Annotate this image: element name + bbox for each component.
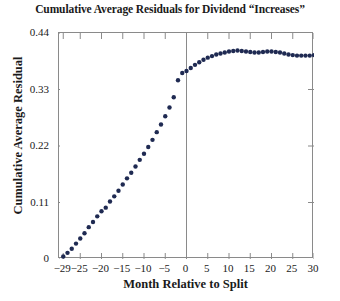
y-tick-label: 0.11 xyxy=(0,196,49,208)
x-tick-label: 20 xyxy=(265,262,276,274)
data-point xyxy=(150,138,154,142)
data-point xyxy=(112,194,116,198)
data-point xyxy=(138,158,142,162)
x-tick-label: 15 xyxy=(244,262,255,274)
x-tick-label: −10 xyxy=(134,262,151,274)
data-point xyxy=(282,51,286,55)
data-point xyxy=(184,69,188,73)
x-tick-label: −5 xyxy=(158,262,170,274)
data-point xyxy=(146,145,150,149)
data-point xyxy=(223,50,227,54)
data-point xyxy=(206,55,210,59)
data-point xyxy=(82,231,86,235)
data-point xyxy=(125,176,129,180)
data-point xyxy=(99,209,103,213)
data-point xyxy=(74,241,78,245)
data-point xyxy=(193,63,197,67)
data-point xyxy=(142,152,146,156)
data-point xyxy=(240,49,244,53)
data-point xyxy=(201,58,205,62)
data-point xyxy=(274,50,278,54)
data-point xyxy=(303,53,307,57)
data-point xyxy=(108,199,112,203)
data-point xyxy=(286,52,290,56)
data-point xyxy=(227,49,231,53)
data-point xyxy=(299,53,303,57)
data-point xyxy=(91,220,95,224)
data-point xyxy=(70,247,74,251)
plot-area xyxy=(58,32,313,258)
y-tick-label: 0.22 xyxy=(0,139,49,151)
y-tick-label: 0.44 xyxy=(0,26,49,38)
y-tick-label: 0.33 xyxy=(0,83,49,95)
data-point xyxy=(248,50,252,54)
data-point xyxy=(197,60,201,64)
plot-svg xyxy=(59,33,314,259)
data-point xyxy=(163,114,167,118)
data-point xyxy=(210,54,214,58)
data-point xyxy=(87,225,91,229)
y-tick-label: 0 xyxy=(0,252,49,264)
data-point xyxy=(172,95,176,99)
data-point xyxy=(189,66,193,70)
x-tick-label: −20 xyxy=(92,262,109,274)
data-point xyxy=(95,214,99,218)
data-point xyxy=(265,49,269,53)
data-point xyxy=(235,48,239,52)
data-point xyxy=(104,205,108,209)
x-tick-label: 30 xyxy=(308,262,319,274)
x-tick-label: 25 xyxy=(286,262,297,274)
x-axis-label: Month Relative to Split xyxy=(58,277,313,292)
data-point xyxy=(312,53,314,57)
data-point xyxy=(218,51,222,55)
data-point xyxy=(116,188,120,192)
data-point xyxy=(65,251,69,255)
data-point xyxy=(244,49,248,53)
x-tick-label: −29 xyxy=(54,262,71,274)
data-point xyxy=(261,50,265,54)
x-tick-label: −15 xyxy=(113,262,130,274)
data-point xyxy=(295,53,299,57)
data-point xyxy=(78,236,82,240)
x-tick-label: 0 xyxy=(183,262,189,274)
data-point xyxy=(269,49,273,53)
data-point xyxy=(308,53,312,57)
data-point xyxy=(176,78,180,82)
data-point xyxy=(257,50,261,54)
data-point xyxy=(214,52,218,56)
data-point xyxy=(159,122,163,126)
data-point xyxy=(121,182,125,186)
data-point xyxy=(129,171,133,175)
x-tick-label: −25 xyxy=(71,262,88,274)
data-point xyxy=(180,71,184,75)
data-point xyxy=(155,130,159,134)
x-tick-label: 5 xyxy=(204,262,210,274)
chart-title: Cumulative Average Residuals for Dividen… xyxy=(0,3,340,15)
data-point xyxy=(167,105,171,109)
chart-figure: Cumulative Average Residuals for Dividen… xyxy=(0,0,340,301)
data-point xyxy=(231,49,235,53)
data-point xyxy=(133,164,137,168)
data-point xyxy=(252,50,256,54)
data-point xyxy=(61,254,65,258)
x-tick-label: 10 xyxy=(223,262,234,274)
data-point xyxy=(291,53,295,57)
data-point xyxy=(278,50,282,54)
